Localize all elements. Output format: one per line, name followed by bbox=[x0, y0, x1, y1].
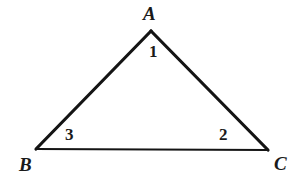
angle-label-2: 2 bbox=[219, 126, 228, 143]
triangle-side-ac bbox=[151, 31, 268, 150]
vertex-label-a: A bbox=[143, 4, 156, 23]
triangle-diagram: A B C 1 2 3 bbox=[0, 0, 301, 179]
vertex-label-c: C bbox=[274, 154, 287, 173]
angle-label-1: 1 bbox=[149, 43, 158, 60]
vertex-label-b: B bbox=[19, 155, 32, 174]
triangle-svg bbox=[0, 0, 301, 179]
triangle-side-ab bbox=[36, 31, 151, 149]
angle-label-3: 3 bbox=[65, 126, 74, 143]
triangle-side-bc bbox=[36, 149, 268, 150]
